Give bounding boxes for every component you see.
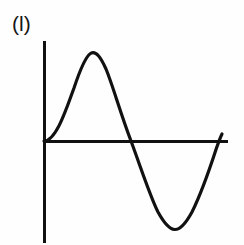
figure-panel: (l) xyxy=(0,0,244,245)
sine-wave-plot xyxy=(0,0,244,245)
axes-group xyxy=(44,41,228,243)
